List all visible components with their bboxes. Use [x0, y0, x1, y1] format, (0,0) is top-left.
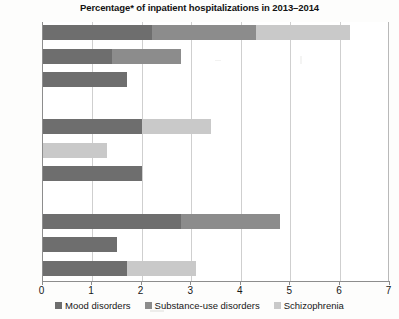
legend-label: Schizophrenia: [284, 300, 344, 311]
bar-segment[interactable]: [43, 49, 112, 64]
bar-row: [43, 46, 388, 70]
bar-segment[interactable]: [43, 143, 107, 158]
x-axis-tick-label: 4: [225, 285, 255, 296]
bar-stack[interactable]: [43, 143, 107, 158]
legend-swatch-icon: [55, 302, 62, 309]
bar-stack[interactable]: [43, 214, 281, 229]
bar-row: [43, 257, 388, 281]
bar-segment[interactable]: [142, 119, 211, 134]
bar-row: [43, 93, 388, 117]
bar-stack[interactable]: [43, 166, 142, 181]
bar-stack[interactable]: [43, 49, 182, 64]
bar-row: [43, 187, 388, 211]
bar-row: [43, 210, 388, 234]
bar-stack[interactable]: [43, 72, 127, 87]
legend-label: Mood disorders: [65, 300, 130, 311]
bar-segment[interactable]: [181, 214, 280, 229]
legend-item[interactable]: Schizophrenia: [274, 300, 344, 311]
legend-swatch-icon: [274, 302, 281, 309]
x-axis-tick-label: 6: [324, 285, 354, 296]
bar-segment[interactable]: [43, 166, 142, 181]
chart-title: Percentage* of inpatient hospitalization…: [0, 2, 399, 13]
bar-segment[interactable]: [256, 25, 350, 40]
bar-stack[interactable]: [43, 119, 212, 134]
bar-segment[interactable]: [152, 25, 256, 40]
legend-item[interactable]: Substance-use disorders: [145, 300, 260, 311]
bar-row: [43, 140, 388, 164]
bar-row: [43, 234, 388, 258]
bar-segment[interactable]: [43, 237, 117, 252]
bar-segment[interactable]: [112, 49, 181, 64]
x-axis-tick-label: 3: [175, 285, 205, 296]
chart-legend: Mood disordersSubstance-use disordersSch…: [0, 300, 399, 311]
x-axis-tick-label: 2: [126, 285, 156, 296]
x-axis-tick-label: 7: [374, 285, 399, 296]
x-axis-tick-label: 5: [274, 285, 304, 296]
x-axis-tick-label: 0: [27, 285, 57, 296]
bar-segment[interactable]: [43, 119, 142, 134]
legend-swatch-icon: [145, 302, 152, 309]
bar-row: [43, 22, 388, 46]
legend-item[interactable]: Mood disorders: [55, 300, 130, 311]
bar-row: [43, 69, 388, 93]
bar-segment[interactable]: [127, 261, 196, 276]
chart-container: Percentage* of inpatient hospitalization…: [0, 0, 399, 319]
plot-area: [42, 22, 389, 281]
bar-segment[interactable]: [43, 261, 127, 276]
x-axis-line: [42, 281, 390, 282]
bar-stack[interactable]: [43, 261, 197, 276]
bar-segment[interactable]: [43, 214, 182, 229]
bar-segment[interactable]: [43, 72, 127, 87]
bar-row: [43, 116, 388, 140]
legend-label: Substance-use disorders: [155, 300, 260, 311]
bar-row: [43, 163, 388, 187]
bar-stack[interactable]: [43, 25, 350, 40]
bar-stack[interactable]: [43, 237, 117, 252]
x-axis-tick-label: 1: [76, 285, 106, 296]
bar-segment[interactable]: [43, 25, 152, 40]
